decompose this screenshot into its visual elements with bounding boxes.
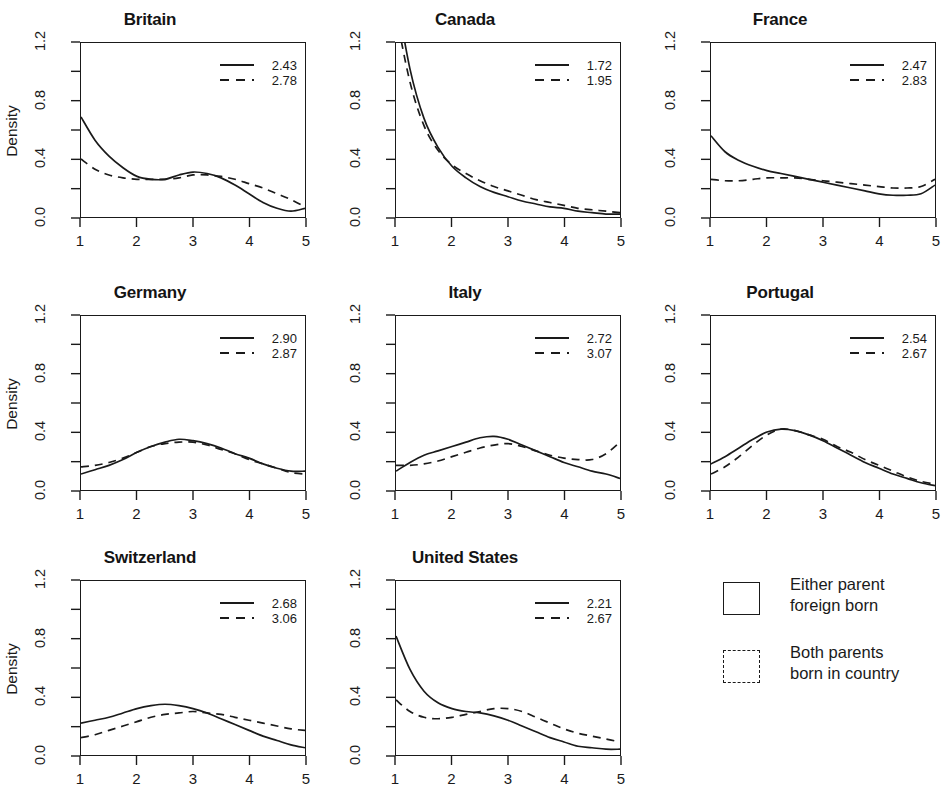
series-line-either-parent	[81, 439, 305, 474]
mean-value-either-parent: 1.72	[580, 59, 612, 72]
mean-value-both-parents: 2.67	[895, 347, 927, 360]
mean-row-either-parent: 2.90	[185, 330, 297, 346]
y-tick-label: 0.0	[347, 738, 363, 772]
dashed-line-icon	[849, 75, 885, 85]
x-tick-label: 1	[383, 770, 407, 787]
y-tick-label: 1.2	[32, 562, 48, 596]
mean-row-either-parent: 2.43	[185, 57, 297, 73]
y-tick-label: 0.4	[347, 141, 363, 175]
dashed-line-icon	[534, 75, 570, 85]
y-tick-label: 0.4	[662, 141, 678, 175]
plot-area: 2.212.67	[395, 580, 621, 756]
dashed-line-icon	[219, 613, 255, 623]
panel-mean-legend: 2.723.07	[500, 330, 612, 364]
dashed-line-icon	[534, 348, 570, 358]
solid-line-icon	[849, 333, 885, 343]
x-tick-label: 2	[755, 232, 779, 249]
solid-line-icon	[849, 60, 885, 70]
x-tick-label: 1	[68, 232, 92, 249]
plot-area: 2.723.07	[395, 315, 621, 491]
mean-row-both-parents: 2.83	[815, 72, 927, 88]
mean-row-either-parent: 2.21	[500, 595, 612, 611]
mean-value-both-parents: 2.83	[895, 74, 927, 87]
x-tick-label: 1	[68, 770, 92, 787]
panel-germany: GermanyDensity0.00.40.81.2123452.902.87	[0, 283, 305, 544]
y-axis-label: Density	[3, 624, 21, 714]
plot-area: 2.683.06	[80, 580, 306, 756]
legend-entry-both-parents: Both parents born in country	[700, 644, 928, 698]
panel-mean-legend: 2.542.67	[815, 330, 927, 364]
x-tick-label: 4	[238, 770, 262, 787]
y-axis-label: Density	[3, 359, 21, 449]
mean-row-both-parents: 2.87	[185, 345, 297, 361]
solid-line-icon	[219, 598, 255, 608]
y-tick-label: 0.8	[347, 83, 363, 117]
y-tick-label: 0.4	[347, 414, 363, 448]
x-tick-label: 3	[496, 505, 520, 522]
y-tick-label: 0.8	[32, 83, 48, 117]
solid-line-icon	[534, 333, 570, 343]
x-tick-label: 1	[698, 232, 722, 249]
mean-row-both-parents: 3.07	[500, 345, 612, 361]
x-tick-label: 4	[553, 505, 577, 522]
panel-switzerland: SwitzerlandDensity0.00.40.81.2123452.683…	[0, 548, 305, 791]
mean-value-both-parents: 3.07	[580, 347, 612, 360]
y-tick-label: 0.4	[32, 141, 48, 175]
panel-portugal: Portugal0.00.40.81.2123452.542.67	[625, 283, 935, 544]
dashed-line-icon	[219, 348, 255, 358]
series-line-either-parent	[711, 429, 935, 486]
x-tick-label: 4	[553, 232, 577, 249]
plot-area: 2.472.83	[710, 42, 936, 218]
x-tick-label: 1	[383, 505, 407, 522]
mean-value-both-parents: 2.87	[265, 347, 297, 360]
dashed-square-icon	[723, 650, 760, 683]
panel-france: France0.00.40.81.2123452.472.83	[625, 10, 935, 271]
y-tick-label: 0.4	[32, 679, 48, 713]
x-tick-label: 5	[924, 232, 945, 249]
x-tick-label: 3	[181, 232, 205, 249]
y-tick-label: 1.2	[32, 297, 48, 331]
mean-value-both-parents: 3.06	[265, 612, 297, 625]
panel-mean-legend: 2.432.78	[185, 57, 297, 91]
panel-italy: Italy0.00.40.81.2123452.723.07	[310, 283, 620, 544]
y-tick-label: 0.0	[32, 473, 48, 507]
y-tick-label: 0.0	[32, 200, 48, 234]
mean-row-both-parents: 2.78	[185, 72, 297, 88]
mean-row-both-parents: 3.06	[185, 610, 297, 626]
mean-value-both-parents: 2.78	[265, 74, 297, 87]
solid-line-icon	[219, 60, 255, 70]
mean-value-either-parent: 2.21	[580, 597, 612, 610]
mean-value-either-parent: 2.43	[265, 59, 297, 72]
x-tick-label: 2	[440, 505, 464, 522]
solid-line-icon	[534, 598, 570, 608]
panel-mean-legend: 2.472.83	[815, 57, 927, 91]
x-tick-label: 4	[868, 232, 892, 249]
x-tick-label: 2	[755, 505, 779, 522]
legend-label-either-parent: Either parent foreign born	[790, 574, 884, 616]
x-tick-label: 2	[125, 505, 149, 522]
mean-value-either-parent: 2.47	[895, 59, 927, 72]
y-tick-label: 0.0	[347, 473, 363, 507]
mean-value-both-parents: 2.67	[580, 612, 612, 625]
y-tick-label: 0.8	[347, 621, 363, 655]
panel-mean-legend: 2.902.87	[185, 330, 297, 364]
x-tick-label: 1	[698, 505, 722, 522]
x-tick-label: 1	[383, 232, 407, 249]
mean-row-either-parent: 2.72	[500, 330, 612, 346]
y-tick-label: 0.0	[662, 473, 678, 507]
x-tick-label: 3	[181, 505, 205, 522]
x-tick-label: 2	[440, 770, 464, 787]
panel-canada: Canada0.00.40.81.2123451.721.95	[310, 10, 620, 271]
series-line-either-parent	[396, 636, 620, 749]
x-tick-label: 4	[553, 770, 577, 787]
plot-area: 2.542.67	[710, 315, 936, 491]
figure-legend: Either parent foreign born Both parents …	[700, 568, 928, 708]
solid-line-icon	[219, 333, 255, 343]
plot-area: 1.721.95	[395, 42, 621, 218]
series-line-both-parents	[81, 159, 305, 207]
x-tick-label: 3	[811, 505, 835, 522]
panel-mean-legend: 2.212.67	[500, 595, 612, 629]
mean-row-either-parent: 1.72	[500, 57, 612, 73]
mean-row-both-parents: 1.95	[500, 72, 612, 88]
y-tick-label: 1.2	[662, 24, 678, 58]
